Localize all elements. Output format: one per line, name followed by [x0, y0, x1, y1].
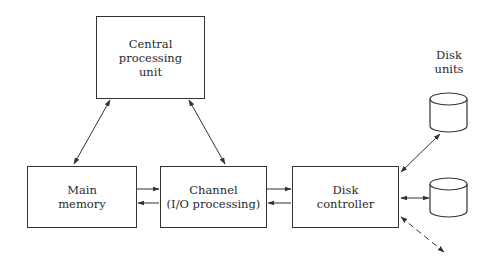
arrow-controller-disk1 — [401, 134, 440, 172]
channel-box: Channel (I/O processing) — [160, 166, 267, 228]
diagram-connectors — [0, 0, 490, 270]
disk-unit-2-icon — [430, 178, 467, 217]
memory-label-line2: memory — [58, 197, 106, 211]
disk-controller-box: Disk controller — [292, 166, 399, 228]
disk-units-line2: units — [420, 62, 478, 76]
channel-label-line1: Channel — [189, 183, 237, 197]
cpu-label-line3: unit — [139, 65, 162, 79]
cpu-label-line2: processing — [119, 51, 182, 65]
arrow-cpu-memory — [74, 100, 110, 164]
memory-label-line1: Main — [67, 183, 97, 197]
controller-label-line1: Disk — [333, 183, 359, 197]
main-memory-box: Main memory — [27, 166, 137, 228]
cpu-label-line1: Central — [129, 37, 173, 51]
disk-units-label: Disk units — [420, 48, 478, 76]
disk-units-line1: Disk — [420, 48, 478, 62]
channel-label-line2: (I/O processing) — [167, 197, 261, 211]
disk-unit-1-icon — [430, 93, 467, 132]
cpu-box: Central processing unit — [96, 16, 205, 99]
arrow-controller-more-disks — [401, 217, 444, 252]
arrow-cpu-channel — [189, 100, 225, 164]
controller-label-line2: controller — [317, 197, 374, 211]
